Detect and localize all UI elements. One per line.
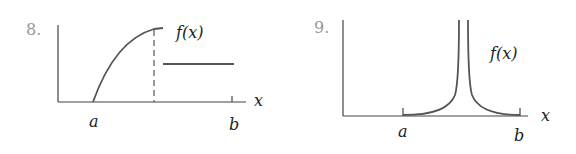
increasing-curve [93, 28, 163, 102]
tick-label-b: b [229, 115, 239, 134]
x-axis-label: x [541, 106, 550, 125]
figure-number: 9. [314, 18, 329, 37]
figure-9: 9. f(x) x a b [314, 18, 550, 145]
x-axis-label: x [254, 91, 263, 110]
figure-number: 8. [26, 20, 41, 39]
tick-label-b: b [514, 126, 524, 145]
right-spike-curve [468, 20, 520, 115]
tick-label-a: a [398, 122, 408, 141]
function-label: f(x) [175, 23, 203, 42]
tick-label-a: a [89, 112, 99, 131]
left-spike-curve [403, 20, 459, 115]
function-label: f(x) [489, 44, 517, 63]
figure-canvas: 8. f(x) x a b 9. f(x) x a b [0, 0, 576, 154]
figure-8: 8. f(x) x a b [26, 20, 263, 134]
